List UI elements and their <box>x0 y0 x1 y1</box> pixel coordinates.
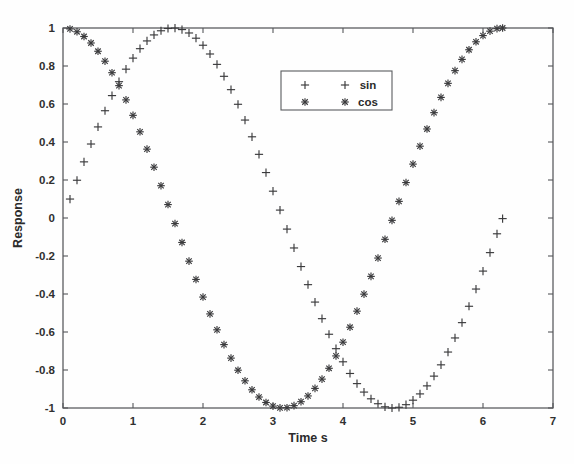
x-tick-label: 2 <box>200 415 206 427</box>
data-point-cos <box>444 80 452 88</box>
data-point-sin <box>437 361 445 369</box>
data-point-cos <box>339 338 347 346</box>
data-point-cos <box>479 32 487 40</box>
y-tick-label: -0.2 <box>35 250 55 262</box>
x-tick-label: 1 <box>130 415 137 427</box>
y-tick-label: 0.6 <box>39 98 55 110</box>
y-tick-label: 0.4 <box>39 136 56 148</box>
data-point-cos <box>318 375 326 383</box>
data-point-sin <box>499 215 507 223</box>
data-point-cos <box>416 142 424 150</box>
data-point-cos <box>409 160 417 168</box>
data-point-sin <box>80 158 88 166</box>
data-point-cos <box>66 25 74 33</box>
y-tick-labels: -1-0.8-0.6-0.4-0.200.20.40.60.81 <box>35 22 55 414</box>
data-point-sin <box>269 187 277 195</box>
data-point-cos <box>206 310 214 318</box>
data-point-cos <box>80 33 88 41</box>
data-point-cos <box>185 257 193 265</box>
data-point-sin <box>192 34 200 42</box>
data-point-cos <box>465 46 473 54</box>
data-point-cos <box>234 366 242 374</box>
data-point-sin <box>367 395 375 403</box>
data-point-cos <box>472 38 480 46</box>
data-point-cos <box>269 402 277 410</box>
data-point-cos <box>129 112 137 120</box>
data-point-sin <box>108 92 116 100</box>
data-point-cos <box>108 69 116 77</box>
data-point-cos <box>499 24 507 32</box>
y-tick-label: -0.6 <box>35 326 55 338</box>
data-point-sin <box>66 195 74 203</box>
data-point-cos <box>73 28 81 36</box>
x-tick-label: 5 <box>410 415 417 427</box>
y-tick-label: 1 <box>49 22 56 34</box>
data-point-sin <box>171 24 179 32</box>
data-point-cos <box>325 364 333 372</box>
data-point-sin <box>94 123 102 131</box>
legend-label-cos[interactable]: cos <box>358 96 378 108</box>
data-point-cos <box>311 385 319 393</box>
data-point-sin <box>136 45 144 53</box>
y-axis-title: Response <box>11 188 25 248</box>
data-point-cos <box>220 341 228 349</box>
data-point-sin <box>346 369 354 377</box>
data-point-cos <box>283 404 291 412</box>
data-point-sin <box>388 404 396 412</box>
data-point-sin <box>297 262 305 270</box>
data-point-cos <box>157 182 165 190</box>
legend[interactable]: sincos <box>281 71 392 110</box>
data-point-cos <box>255 393 263 401</box>
x-tick-label: 4 <box>340 415 347 427</box>
data-point-sin <box>430 372 438 380</box>
data-point-cos <box>262 399 270 407</box>
data-point-sin <box>360 388 368 396</box>
data-point-cos <box>122 96 130 104</box>
data-point-sin <box>185 29 193 37</box>
data-point-sin <box>493 230 501 238</box>
data-point-sin <box>339 358 347 366</box>
data-point-sin <box>479 267 487 275</box>
data-point-cos <box>451 67 459 75</box>
data-point-sin <box>143 37 151 45</box>
data-point-cos <box>374 254 382 262</box>
data-point-sin <box>353 380 361 388</box>
data-point-cos <box>276 404 284 412</box>
data-point-cos <box>493 25 501 33</box>
data-point-sin <box>311 298 319 306</box>
data-point-cos <box>115 82 123 90</box>
data-point-cos <box>290 402 298 410</box>
data-point-sin <box>304 281 312 289</box>
data-point-sin <box>409 396 417 404</box>
data-point-sin <box>472 285 480 293</box>
y-tick-label: -1 <box>45 402 56 414</box>
data-point-sin <box>150 31 158 39</box>
data-point-sin <box>374 400 382 408</box>
data-point-sin <box>290 244 298 252</box>
data-point-sin <box>458 319 466 327</box>
data-point-sin <box>423 382 431 390</box>
data-point-sin <box>101 107 109 115</box>
data-point-cos <box>241 377 249 385</box>
figure-canvas: 01234567 -1-0.8-0.6-0.4-0.200.20.40.60.8… <box>0 0 574 464</box>
data-point-cos <box>353 307 361 315</box>
data-point-cos <box>304 392 312 400</box>
data-point-cos <box>136 128 144 136</box>
data-point-cos <box>367 273 375 281</box>
data-point-cos <box>346 323 354 331</box>
legend-label-sin[interactable]: sin <box>360 79 377 91</box>
y-tick-label: -0.4 <box>35 288 55 300</box>
data-point-cos <box>164 201 172 209</box>
x-tick-labels: 01234567 <box>60 415 556 427</box>
y-tick-label: 0.8 <box>39 60 56 72</box>
data-point-cos <box>486 27 494 35</box>
data-point-sin <box>213 60 221 68</box>
y-tick-label: -0.8 <box>35 364 55 376</box>
data-point-cos <box>178 239 186 247</box>
data-point-sin <box>234 100 242 108</box>
data-point-sin <box>164 24 172 32</box>
data-point-sin <box>381 403 389 411</box>
data-point-cos <box>227 354 235 362</box>
legend-marker-cos <box>301 98 309 106</box>
data-point-sin <box>486 249 494 257</box>
